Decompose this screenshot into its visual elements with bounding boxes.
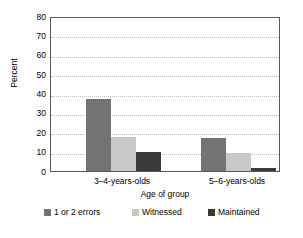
legend-label: Witnessed — [142, 208, 182, 217]
bar — [111, 137, 136, 171]
y-axis-tick-label: 40 — [20, 90, 46, 99]
x-axis-tick-labels: 3–4-years-olds5–6-years-olds — [50, 176, 280, 190]
y-axis-tick-label: 10 — [20, 148, 46, 157]
bar — [201, 138, 226, 171]
legend-label: Maintained — [218, 208, 260, 217]
bar — [251, 168, 276, 171]
y-axis-title: Percent — [9, 43, 19, 103]
legend-item[interactable]: 1 or 2 errors — [44, 208, 100, 217]
chart-legend: 1 or 2 errorsWitnessedMaintained — [44, 208, 270, 222]
y-axis-tick-labels: 80706050403020100 — [20, 17, 46, 172]
x-axis-tick-label: 5–6-years-olds — [209, 176, 265, 186]
y-axis-tick-label: 50 — [20, 71, 46, 80]
legend-swatch-icon — [208, 209, 215, 216]
bars-layer — [51, 18, 279, 171]
y-axis-tick-label: 80 — [20, 13, 46, 22]
legend-swatch-icon — [44, 209, 51, 216]
legend-item[interactable]: Maintained — [208, 208, 260, 217]
legend-label: 1 or 2 errors — [54, 208, 100, 217]
plot-area — [50, 17, 280, 172]
x-axis-title: Age of group — [50, 189, 280, 199]
x-axis-tick-label: 3–4-years-olds — [94, 176, 150, 186]
bar-chart: Percent 80706050403020100 3–4-years-olds… — [0, 0, 303, 238]
bar — [226, 153, 251, 171]
y-axis-tick-label: 60 — [20, 51, 46, 60]
y-axis-tick-label: 70 — [20, 32, 46, 41]
y-axis-tick-label: 20 — [20, 129, 46, 138]
legend-swatch-icon — [132, 209, 139, 216]
bar — [86, 99, 111, 171]
y-axis-tick-label: 30 — [20, 109, 46, 118]
y-axis-tick-label: 0 — [20, 168, 46, 177]
bar — [136, 152, 161, 171]
legend-item[interactable]: Witnessed — [132, 208, 182, 217]
